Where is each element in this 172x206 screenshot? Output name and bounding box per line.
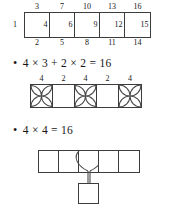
star-strip-figure: 4 2 4 2 [30,84,142,108]
lens-cell [119,151,139,172]
cell-inner-label: 4 [44,21,48,29]
bullet-icon: • [13,123,19,137]
equation-one-text: 4 × 3 + 2 × 2 = 16 [22,57,113,69]
pendant-square [78,183,99,204]
strip-left-label: 1 [13,21,17,29]
bullet-icon: • [13,56,19,70]
cell-top-label: 16 [134,3,142,11]
lens-cell [99,151,119,172]
cell-bottom-label: 2 [35,39,39,47]
cell-top-label: 4 [40,75,44,83]
four-point-star-icon [119,85,141,107]
star-cell: 4 [119,85,141,107]
star-cell: 4 [31,85,53,107]
lens-strip-figure [38,150,140,173]
strip-cell: 10 9 8 [75,13,100,37]
star-cell: 2 [53,85,75,107]
cell-bottom-label: 11 [108,39,116,47]
cell-bottom-label: 8 [85,39,89,47]
cell-top-label: 2 [106,75,110,83]
lens-cell [79,151,99,172]
equation-one: • 4 × 3 + 2 × 2 = 16 [13,56,113,71]
cell-top-label: 3 [35,3,39,11]
star-cell: 2 [97,85,119,107]
four-point-star-icon [75,85,96,107]
cell-top-label: 4 [128,75,132,83]
strip-cell: 1 3 4 2 [25,13,50,37]
outward-arc-pair-icon [79,151,98,172]
cell-bottom-label: 14 [134,39,142,47]
cell-top-label: 10 [83,3,91,11]
lens-cell [39,151,59,172]
cell-inner-label: 12 [115,21,123,29]
cell-top-label: 4 [84,75,88,83]
lens-strip [38,150,140,173]
equation-two: • 4 × 4 = 16 [13,123,74,138]
cell-top-label: 2 [62,75,66,83]
numbered-strip: 1 3 4 2 7 6 5 10 9 8 13 12 11 16 [24,12,151,38]
numbered-strip-figure: 1 3 4 2 7 6 5 10 9 8 13 12 11 16 [24,12,151,38]
strip-cell: 16 15 14 [125,13,150,37]
equation-two-text: 4 × 4 = 16 [22,124,74,136]
star-strip: 4 2 4 2 [30,84,142,108]
cell-inner-label: 9 [94,21,98,29]
cell-inner-label: 6 [69,21,73,29]
cell-bottom-label: 5 [60,39,64,47]
figure-sheet: 1 3 4 2 7 6 5 10 9 8 13 12 11 16 [0,0,172,206]
strip-cell: 13 12 11 [100,13,125,37]
strip-cell: 7 6 5 [50,13,75,37]
lens-cell [59,151,79,172]
cell-top-label: 13 [108,3,116,11]
star-cell: 4 [75,85,97,107]
four-point-star-icon [31,85,52,107]
cell-inner-label: 15 [141,21,149,29]
cell-top-label: 7 [60,3,64,11]
